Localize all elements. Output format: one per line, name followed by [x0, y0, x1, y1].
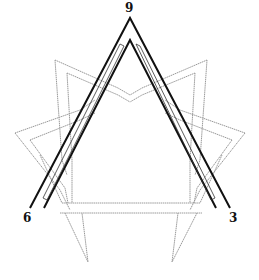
- point-label-6: 6: [23, 212, 31, 224]
- star-inner-right-upper: [130, 73, 195, 102]
- star-bottom-left-point: [65, 213, 88, 262]
- hexad-star-ribbon: [15, 60, 245, 262]
- triangle-9-6-3: [30, 18, 230, 208]
- triangle-outer-line: [30, 18, 230, 208]
- point-label-9: 9: [125, 2, 133, 14]
- point-label-3: 3: [229, 212, 237, 224]
- star-outer-right-wing: [165, 100, 245, 133]
- enneagram-diagram: [0, 0, 259, 280]
- star-bottom-right-point: [172, 213, 197, 262]
